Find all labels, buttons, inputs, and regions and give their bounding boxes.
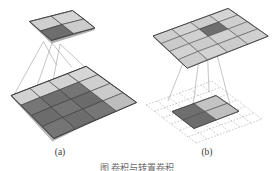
convolution-diagram: (a): [0, 0, 275, 171]
figure-bottom-caption: 图 卷积与转置卷积: [100, 162, 174, 171]
bottom-caption-clip: 图 卷积与转置卷积: [100, 162, 174, 171]
projection-line: [60, 44, 88, 70]
output-feature-map-a[interactable]: [30, 11, 96, 44]
input-feature-map-a[interactable]: [11, 66, 137, 141]
output-feature-map-b[interactable]: [153, 8, 268, 68]
panel-a: (a): [11, 11, 137, 159]
padded-input-feature-map-b[interactable]: [146, 81, 262, 143]
panel-b: (b): [146, 8, 268, 158]
figure-container: (a): [0, 0, 275, 171]
panel-caption-a: (a): [55, 147, 66, 158]
projection-line: [52, 43, 72, 68]
panel-caption-b: (b): [201, 147, 212, 158]
